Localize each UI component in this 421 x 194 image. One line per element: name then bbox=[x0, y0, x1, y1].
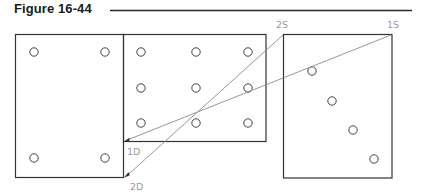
label-1s: 1S bbox=[387, 19, 399, 30]
label-1d: 1D bbox=[127, 146, 140, 157]
hole bbox=[349, 126, 357, 134]
leader-1s-1d bbox=[126, 35, 391, 141]
hole bbox=[101, 48, 109, 56]
hole bbox=[137, 119, 145, 127]
leader-2s-2d bbox=[126, 35, 283, 177]
leader-lines bbox=[126, 35, 391, 177]
hole bbox=[192, 119, 200, 127]
figure-diagram: 2S 1S 1D 2D bbox=[0, 0, 421, 194]
label-2d: 2D bbox=[130, 181, 143, 192]
arrowheads bbox=[124, 138, 130, 178]
hole bbox=[244, 119, 252, 127]
hole bbox=[137, 84, 145, 92]
hole bbox=[137, 48, 145, 56]
left-panel bbox=[16, 35, 124, 178]
hole bbox=[328, 97, 336, 105]
hole bbox=[30, 48, 38, 56]
arrow-1d-icon bbox=[124, 138, 130, 142]
middle-panel bbox=[124, 35, 267, 142]
hole bbox=[244, 48, 252, 56]
hole bbox=[192, 48, 200, 56]
hole bbox=[30, 154, 38, 162]
hole bbox=[192, 84, 200, 92]
hole bbox=[101, 154, 109, 162]
label-2s: 2S bbox=[276, 19, 288, 30]
arrow-2d-icon bbox=[124, 172, 130, 178]
hole bbox=[370, 155, 378, 163]
